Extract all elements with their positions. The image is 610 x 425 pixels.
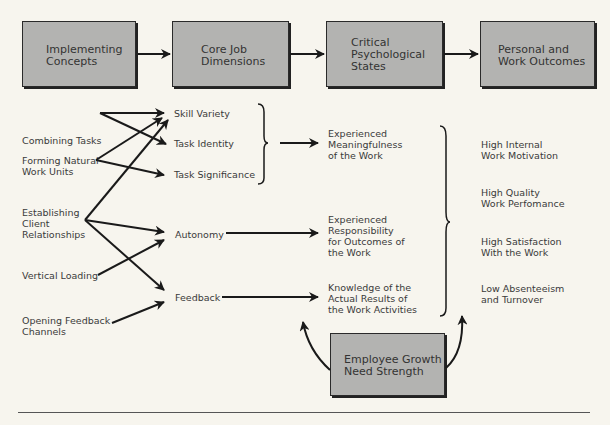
footer-divider — [18, 412, 590, 413]
diagram-connectors — [0, 0, 610, 425]
